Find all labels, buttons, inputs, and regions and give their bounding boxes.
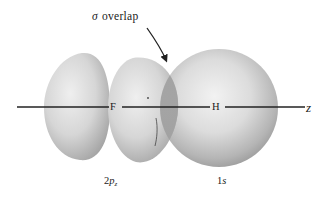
- overlap-text: overlap: [102, 10, 139, 22]
- axis-label-z: z: [306, 101, 311, 114]
- sigma-symbol: σ: [92, 10, 98, 22]
- atom-label-f: F: [110, 102, 116, 113]
- orbital-illustration: [0, 0, 332, 197]
- orbital-label-1s: 1s: [217, 176, 226, 187]
- orbital-2pz-subscript: z: [115, 180, 118, 188]
- atom-label-h: H: [212, 102, 220, 113]
- orbital-label-2pz: 2pz: [104, 176, 117, 188]
- orbital-1s-letter: s: [222, 175, 226, 186]
- overlap-label: σoverlap: [92, 11, 139, 23]
- overlap-arrow-icon: [147, 28, 166, 60]
- sigma-overlap-diagram: σoverlap F H z 2pz 1s: [0, 0, 332, 197]
